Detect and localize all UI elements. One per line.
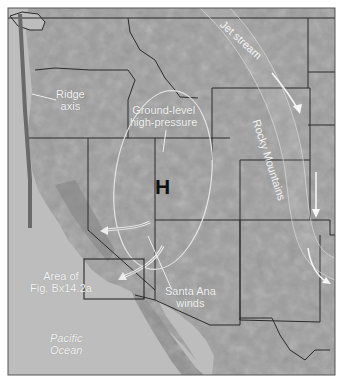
high-pressure-label-line2: high-pressure — [130, 116, 197, 128]
santa-ana-label-line1: Santa Ana — [165, 285, 216, 297]
high-pressure-label: Ground-level high-pressure — [130, 104, 197, 128]
ridge-axis-label-line2: axis — [56, 100, 85, 112]
pacific-ocean-label-line1: Pacific — [50, 332, 82, 344]
high-pressure-label-line1: Ground-level — [130, 104, 197, 116]
pacific-ocean-label-line2: Ocean — [50, 344, 82, 356]
area-of-figure-label-line1: Area of — [30, 270, 92, 282]
santa-ana-label: Santa Ana winds — [165, 285, 216, 309]
pacific-ocean-label: Pacific Ocean — [50, 332, 82, 356]
area-of-figure-label-line2: Fig. Bx14.2a — [30, 282, 92, 294]
ridge-axis-label: Ridge axis — [56, 88, 85, 112]
ridge-axis-label-line1: Ridge — [56, 88, 85, 100]
santa-ana-label-line2: winds — [165, 297, 216, 309]
high-pressure-symbol: H — [155, 175, 170, 199]
area-of-figure-label: Area of Fig. Bx14.2a — [30, 270, 92, 294]
map-canvas — [0, 0, 345, 383]
